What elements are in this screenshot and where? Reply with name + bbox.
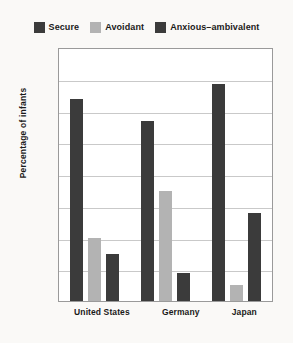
x-axis-tick-label: Japan <box>232 307 257 317</box>
legend-swatch-secure <box>34 22 45 33</box>
legend-entry: Secure <box>34 22 80 33</box>
legend-swatch-avoidant <box>90 22 101 33</box>
bar-group <box>70 49 119 301</box>
bar <box>177 273 190 301</box>
legend-entry: Avoidant <box>90 22 144 33</box>
bar <box>230 285 243 301</box>
bar <box>106 254 119 301</box>
x-axis-tick-label: United States <box>74 307 130 317</box>
bar <box>88 238 101 301</box>
bar <box>159 191 172 301</box>
bar <box>141 121 154 301</box>
legend-label: Avoidant <box>105 23 144 32</box>
bar <box>212 84 225 301</box>
legend-swatch-anxious-ambivalent <box>155 22 166 33</box>
legend-entry: Anxious–ambivalent <box>155 22 259 33</box>
legend-label: Anxious–ambivalent <box>170 23 259 32</box>
bar-chart-figure: SecureAvoidantAnxious–ambivalent Percent… <box>0 0 293 343</box>
legend-label: Secure <box>49 23 80 32</box>
chart-legend: SecureAvoidantAnxious–ambivalent <box>0 22 293 33</box>
bar-series-container <box>59 49 272 301</box>
bar-group <box>212 49 261 301</box>
bar <box>248 213 261 301</box>
x-axis-tick-labels: United StatesGermanyJapan <box>58 307 273 317</box>
y-axis-title: Percentage of infants <box>18 63 28 203</box>
bar <box>70 99 83 301</box>
bar-group <box>141 49 190 301</box>
plot-area <box>58 48 273 302</box>
x-axis-tick-label: Germany <box>162 307 200 317</box>
